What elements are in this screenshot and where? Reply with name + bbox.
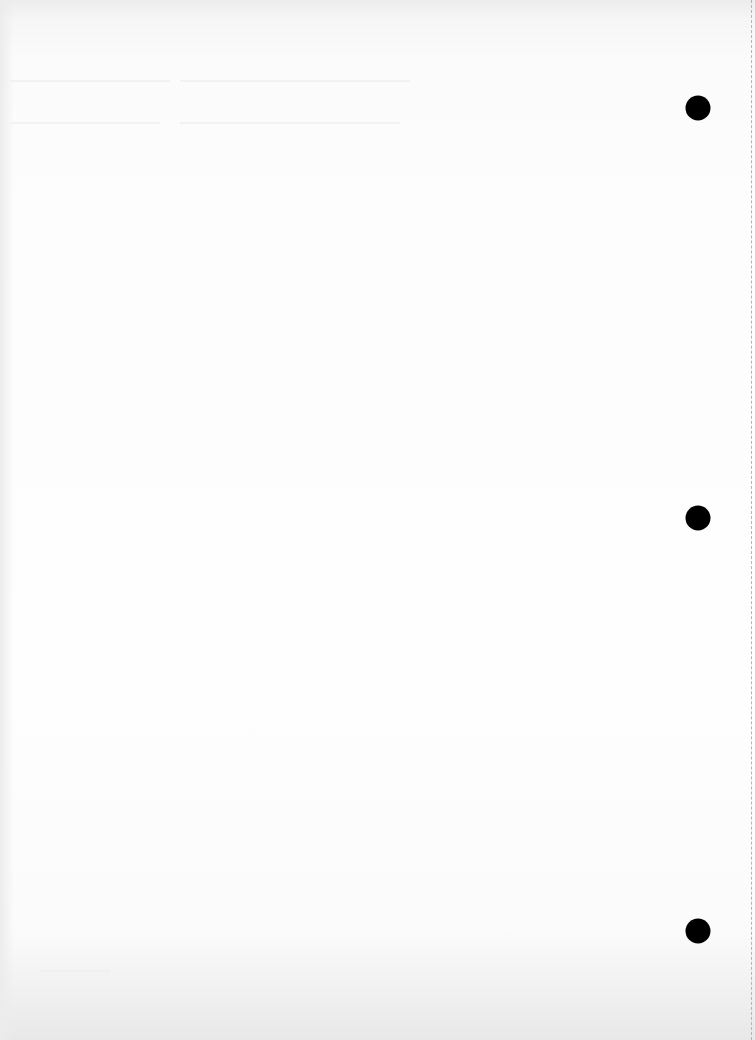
bleed-through-mark	[180, 80, 410, 82]
bleed-through-mark	[10, 122, 160, 124]
perforation-line	[751, 0, 752, 1040]
blank-page	[0, 0, 755, 1040]
punch-hole-bottom	[686, 919, 711, 944]
punch-hole-middle	[686, 506, 711, 531]
bleed-through-mark	[10, 80, 170, 82]
scan-edge-shadow	[0, 0, 14, 1040]
bleed-through-mark	[40, 970, 110, 972]
punch-hole-top	[686, 96, 711, 121]
bleed-through-mark	[180, 122, 400, 124]
